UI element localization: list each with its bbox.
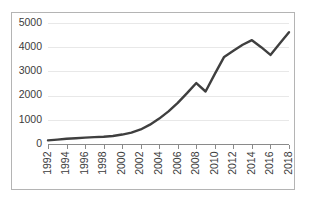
x-axis-tick-label: 2016 (263, 151, 275, 175)
chart-figure: 0100020003000400050001992199419961998200… (0, 0, 310, 205)
line-chart-canvas: 0100020003000400050001992199419961998200… (12, 13, 294, 189)
chart-plot-frame: 0100020003000400050001992199419961998200… (11, 12, 295, 190)
x-axis-tick-label: 2000 (115, 151, 127, 175)
x-axis-tick-label: 1994 (59, 151, 71, 175)
y-axis-tick-label: 4000 (19, 40, 43, 52)
y-axis-tick-label: 1000 (19, 113, 43, 125)
x-axis-tick-label: 2014 (245, 151, 257, 175)
x-axis-tick-label: 2010 (208, 151, 220, 175)
data-series-line (48, 32, 289, 140)
y-axis-tick-label: 0 (36, 137, 42, 149)
y-axis-tick-label: 2000 (19, 88, 43, 100)
y-axis-tick-label: 5000 (19, 16, 43, 28)
x-axis-tick-label: 1998 (96, 151, 108, 175)
x-axis-tick-label: 2008 (189, 151, 201, 175)
x-axis-tick-label: 1992 (41, 151, 53, 175)
x-axis-tick-label: 2004 (152, 151, 164, 175)
x-axis-tick-label: 2018 (282, 151, 294, 175)
x-axis-tick-label: 2012 (226, 151, 238, 175)
x-axis-tick-label: 1996 (78, 151, 90, 175)
y-axis-tick-label: 3000 (19, 64, 43, 76)
x-axis-tick-label: 2002 (133, 151, 145, 175)
x-axis-tick-label: 2006 (171, 151, 183, 175)
